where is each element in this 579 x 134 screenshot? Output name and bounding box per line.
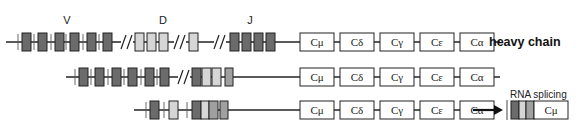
gene-row-dj-rearranged: CμCδCγCεCα [66, 68, 500, 86]
gene-segment-dark [242, 33, 251, 51]
gene-segment-light [189, 33, 198, 51]
segment-label-d: D [159, 14, 167, 26]
gene-segment-dark [145, 68, 154, 86]
gene-segment-dark [230, 33, 239, 51]
spliced-constant-label: Cμ [544, 104, 557, 116]
constant-region-label: Cγ [391, 104, 403, 116]
gene-segment-dark [38, 33, 47, 51]
segment-label-j: J [247, 14, 253, 26]
gene-segment-light [159, 33, 168, 51]
constant-region-label: Cγ [391, 36, 403, 48]
constant-region-label: Cμ [310, 104, 323, 116]
gene-segment-dark [95, 68, 104, 86]
gene-segment-light [212, 68, 221, 86]
gene-segment-dark [254, 33, 263, 51]
heavy-chain-gene-diagram: VDJ CμCδCγCεCαCμCδCγCεCαCμCδCγCεCα heavy… [0, 0, 579, 134]
constant-region-label: Cε [431, 104, 443, 116]
constant-region-label: Cα [470, 36, 483, 48]
gene-segment-dark [112, 68, 121, 86]
gene-segment-light [202, 68, 211, 86]
gene-segment-light [169, 101, 178, 119]
rna-splicing-label: RNA splicing [510, 89, 567, 100]
segment-labels: VDJ [63, 14, 252, 26]
constant-region-label: Cε [431, 71, 443, 83]
gene-segment-dark [103, 33, 112, 51]
gene-segment-dark [266, 33, 275, 51]
constant-region-label: Cα [470, 71, 483, 83]
gene-row-germline: CμCδCγCεCα [6, 33, 500, 51]
gene-segment-mid [220, 101, 228, 119]
gene-segment-dark [70, 33, 79, 51]
gene-segment-dark [79, 68, 88, 86]
gene-segment-dark [160, 68, 169, 86]
gene-segment-dark [128, 68, 137, 86]
constant-region-label: Cε [431, 36, 443, 48]
constant-region-label: Cδ [351, 71, 364, 83]
heavy-chain-title: heavy chain [489, 35, 561, 49]
constant-region-label: Cδ [351, 104, 364, 116]
gene-segment-dark [55, 33, 64, 51]
gene-segment-light [135, 33, 144, 51]
gene-rows: CμCδCγCεCαCμCδCγCεCαCμCδCγCεCα [6, 33, 500, 119]
constant-region-label: Cμ [310, 36, 323, 48]
segment-label-v: V [63, 14, 71, 26]
constant-region-label: Cδ [351, 36, 364, 48]
gene-segment-light [147, 33, 156, 51]
gene-segment-dark [192, 101, 201, 119]
constant-region-label: Cγ [391, 71, 403, 83]
spliced-mrna-product: Cμ [507, 100, 568, 120]
gene-segment-mid [209, 101, 218, 119]
gene-segment-light [201, 101, 209, 119]
constant-region-label: Cμ [310, 71, 323, 83]
gene-segment-dark [192, 68, 201, 86]
gene-segment-mid [225, 68, 233, 86]
spliced-segment-light [519, 101, 526, 119]
gene-segment-dark [150, 101, 159, 119]
gene-segment-dark [87, 33, 96, 51]
spliced-segment-mid [526, 101, 534, 119]
gene-segment-dark [22, 33, 31, 51]
spliced-segment-dark [511, 101, 519, 119]
gene-row-vdj-rearranged: CμCδCγCεCα [134, 101, 500, 119]
